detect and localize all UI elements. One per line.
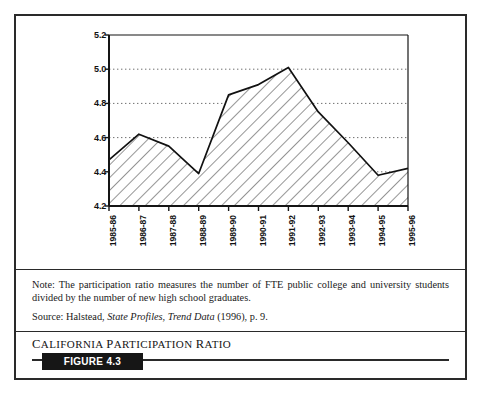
x-axis-tick-label: 1987-88	[168, 215, 178, 246]
chart-plot: 4.24.44.64.85.05.2 1985-861986-871987-88…	[16, 16, 465, 270]
source-text: Source: Halstead, State Profiles, Trend …	[32, 311, 449, 324]
caption-region: CALIFORNIA PARTICIPATION RATIO FIGURE 4.…	[16, 332, 465, 378]
caption-word-rest: ALIFORNIA	[41, 338, 103, 350]
source-prefix: Source: Halstead,	[32, 311, 107, 322]
x-axis-tick-label: 1991-92	[287, 215, 297, 246]
source-title-2: Trend Data	[168, 311, 215, 322]
x-axis-tick-label: 1993-94	[347, 215, 357, 246]
x-axis-tick-label: 1986-87	[138, 215, 148, 246]
x-axis-tick-label: 1992-93	[317, 215, 327, 246]
source-suffix: (1996), p. 9.	[215, 311, 268, 322]
figure-frame: 4.24.44.64.85.05.2 1985-861986-871987-88…	[14, 14, 467, 380]
note-box: Note: The participation ratio measures t…	[16, 270, 465, 332]
x-axis-tick-label: 1989-90	[228, 215, 238, 246]
figure-number-badge: FIGURE 4.3	[42, 353, 143, 370]
caption-word-rest: ARTICIPATION	[114, 338, 193, 350]
x-axis-tick-label: 1988-89	[198, 215, 208, 246]
x-axis-labels: 1985-861986-871987-881988-891989-901990-…	[16, 16, 465, 270]
caption-word-initial: C	[32, 337, 41, 351]
figure-caption-title: CALIFORNIA PARTICIPATION RATIO	[32, 337, 231, 352]
figure-number-label: FIGURE 4.3	[42, 353, 143, 370]
caption-word-rest: ATIO	[205, 338, 232, 350]
chart-region: 4.24.44.64.85.05.2 1985-861986-871987-88…	[16, 16, 465, 270]
x-axis-tick-label: 1985-86	[108, 215, 118, 246]
caption-word-initial: R	[196, 337, 205, 351]
caption-word-initial: P	[106, 337, 113, 351]
x-axis-tick-label: 1994-95	[377, 215, 387, 246]
source-title-1: State Profiles	[107, 311, 162, 322]
note-text: Note: The participation ratio measures t…	[32, 279, 449, 304]
x-axis-tick-label: 1990-91	[258, 215, 268, 246]
x-axis-tick-label: 1995-96	[407, 215, 417, 246]
